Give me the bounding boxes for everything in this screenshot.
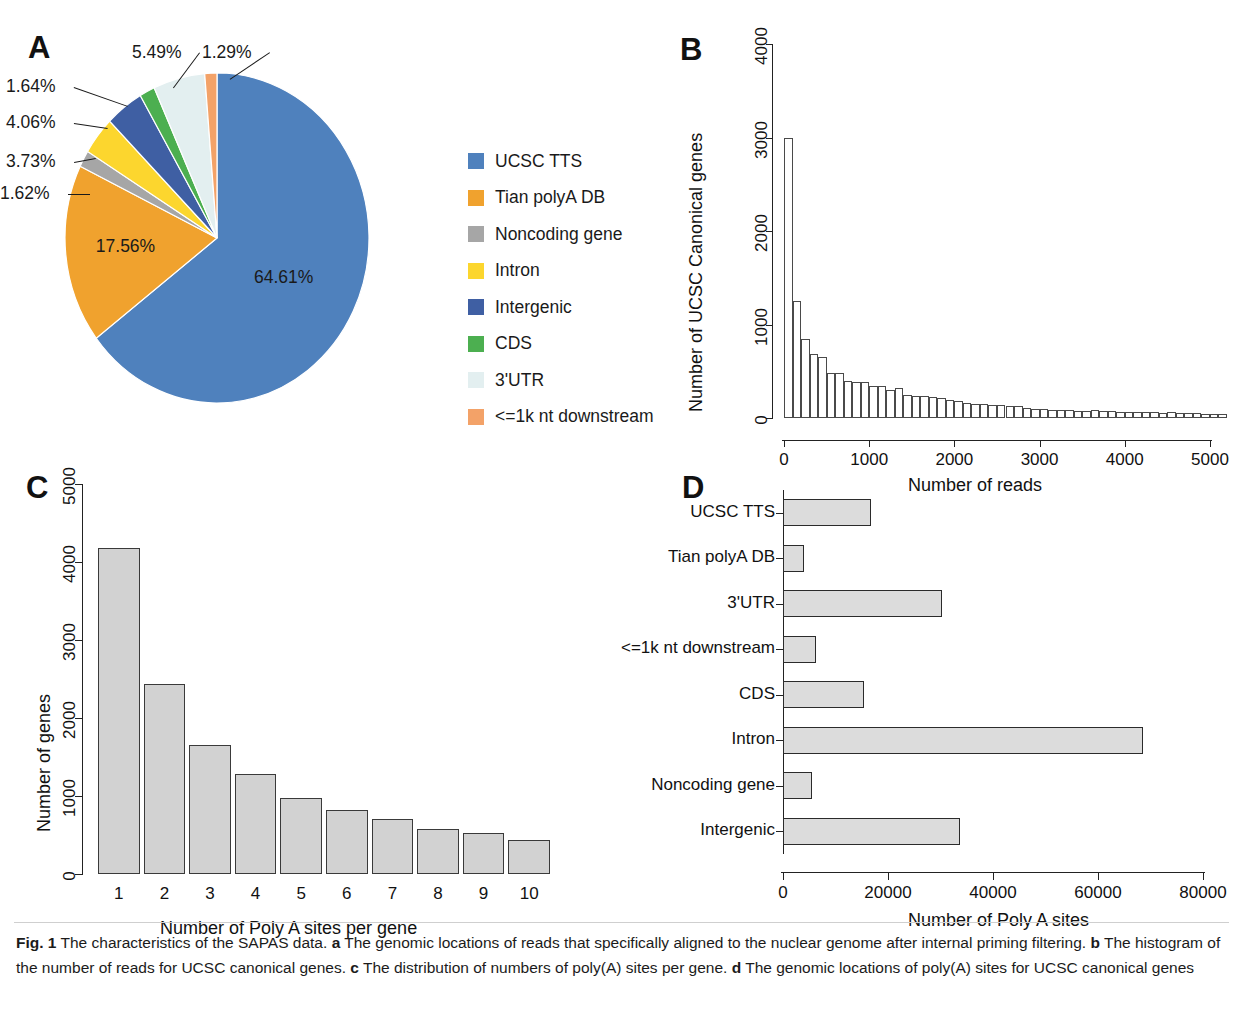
- panel-b-x-axis-line: [782, 440, 1212, 441]
- panel-c-bar: [98, 548, 140, 874]
- panel-b-histogram-bar: [1091, 410, 1100, 418]
- pie-chart-area: 64.61%17.56%1.62%3.73%4.06%1.64%5.49%1.2…: [52, 66, 382, 411]
- panel-b-y-tick-label: 4000: [752, 20, 772, 72]
- pie-slice-label: 4.06%: [6, 112, 56, 133]
- panel-c-bar: [372, 819, 414, 874]
- panel-b-histogram-bar: [1074, 411, 1083, 418]
- panel-c-y-tick-label: 1000: [60, 772, 80, 824]
- panel-b-histogram-bar: [810, 354, 819, 418]
- pie-slice-label: 1.64%: [6, 76, 56, 97]
- panel-b-histogram-bar: [1176, 413, 1185, 418]
- panel-b-letter: B: [680, 32, 702, 68]
- caption-divider: [14, 922, 1229, 923]
- legend-item-label: Tian polyA DB: [495, 187, 605, 208]
- legend-color-swatch: [468, 372, 484, 388]
- panel-d-x-tick-label: 40000: [938, 883, 1048, 903]
- panel-b-histogram-bar: [912, 396, 921, 418]
- panel-d-x-tick: [1098, 872, 1099, 880]
- panel-b-histogram-bar: [1159, 413, 1168, 418]
- panel-c-bar: [417, 829, 459, 874]
- panel-d-category-label: Intergenic: [523, 820, 775, 840]
- panel-b-histogram: B 01000200030004000010002000300040005000…: [640, 18, 1243, 468]
- panel-d-x-tick: [783, 872, 784, 880]
- panel-b-histogram-bar: [1133, 412, 1142, 418]
- panel-d-bar: [783, 590, 942, 617]
- panel-c-x-tick-label: 10: [499, 884, 559, 904]
- panel-a-letter: A: [28, 30, 50, 66]
- panel-b-histogram-bar: [895, 388, 904, 418]
- legend-color-swatch: [468, 409, 484, 425]
- panel-b-histogram-bar: [861, 382, 870, 418]
- panel-b-histogram-bar: [793, 301, 802, 418]
- panel-c-bar: [280, 798, 322, 874]
- panel-d-x-axis-title: Number of Poly A sites: [908, 910, 1089, 931]
- panel-b-histogram-bar: [1142, 412, 1151, 418]
- legend-item-label: Intron: [495, 260, 540, 281]
- panel-b-x-tick: [954, 440, 955, 447]
- panel-b-histogram-bar: [827, 373, 836, 418]
- caption-label: Fig. 1: [16, 934, 56, 951]
- panel-b-histogram-bar: [835, 373, 844, 418]
- panel-b-histogram-bar: [1023, 408, 1032, 418]
- panel-b-x-tick: [1040, 440, 1041, 447]
- panel-b-histogram-bar: [1193, 413, 1202, 418]
- panel-c-y-tick-label: 4000: [60, 538, 80, 590]
- caption-a-tag: a: [332, 934, 341, 951]
- panel-b-histogram-bar: [1031, 409, 1040, 418]
- legend-color-swatch: [468, 299, 484, 315]
- panel-b-histogram-bar: [1099, 411, 1108, 418]
- panel-d-bar: [783, 681, 864, 708]
- legend-color-swatch: [468, 226, 484, 242]
- pie-label-leader-line: [68, 194, 90, 195]
- pie-slice-label: 64.61%: [254, 267, 313, 288]
- panel-d-category-label: 3'UTR: [523, 593, 775, 613]
- panel-d-category-label: CDS: [523, 684, 775, 704]
- panel-d-x-tick-label: 0: [728, 883, 838, 903]
- panel-b-histogram-bar: [903, 395, 912, 418]
- panel-c-y-tick-label: 0: [60, 850, 80, 902]
- panel-c-bar: [508, 840, 550, 874]
- panel-b-histogram-bar: [1108, 411, 1117, 418]
- panel-b-histogram-bar: [784, 138, 793, 418]
- panel-b-histogram-bar: [946, 400, 955, 418]
- panel-b-histogram-bar: [844, 381, 853, 418]
- pie-slice-label: 17.56%: [96, 236, 155, 257]
- panel-b-histogram-bar: [988, 405, 997, 418]
- caption-d-tag: d: [732, 959, 741, 976]
- panel-b-histogram-bar: [1082, 411, 1091, 418]
- panel-b-histogram-bar: [929, 397, 938, 418]
- panel-d-letter: D: [682, 470, 704, 506]
- panel-b-histogram-bar: [878, 386, 887, 418]
- panel-c-y-tick-label: 5000: [60, 460, 80, 512]
- panel-d-category-tick: [776, 786, 783, 787]
- panel-b-x-tick: [869, 440, 870, 447]
- panel-c-bar: [326, 810, 368, 874]
- pie-slice-label: 3.73%: [6, 151, 56, 172]
- panel-d-x-tick-label: 60000: [1043, 883, 1153, 903]
- panel-d-bar: [783, 499, 871, 526]
- panel-d-category-tick: [776, 513, 783, 514]
- caption-a-text: The genomic locations of reads that spec…: [344, 934, 1086, 951]
- panel-b-y-tick-label: 3000: [752, 114, 772, 166]
- legend-item-label: Intergenic: [495, 297, 572, 318]
- panel-b-histogram-bar: [997, 405, 1006, 418]
- panel-d-x-tick: [993, 872, 994, 880]
- caption-d-text: The genomic locations of poly(A) sites f…: [745, 959, 1194, 976]
- panel-b-histogram-bar: [818, 357, 827, 418]
- panel-d-bar: [783, 772, 812, 799]
- panel-d-x-tick: [888, 872, 889, 880]
- panel-b-histogram-bar: [1125, 412, 1134, 418]
- panel-c-y-tick-label: 3000: [60, 616, 80, 668]
- pie-slice-label: 5.49%: [132, 42, 182, 63]
- panel-d-category-tick: [776, 740, 783, 741]
- panel-b-histogram-bar: [1167, 412, 1176, 418]
- panel-b-histogram-bar: [1014, 406, 1023, 418]
- panel-b-y-tick-label: 1000: [752, 301, 772, 353]
- panel-d-bar: [783, 727, 1143, 754]
- panel-d-x-tick-label: 80000: [1148, 883, 1243, 903]
- panel-b-histogram-bar: [937, 398, 946, 418]
- panel-d-category-label: Intron: [523, 729, 775, 749]
- legend-item-label: CDS: [495, 333, 532, 354]
- figure-caption: Fig. 1 The characteristics of the SAPAS …: [16, 930, 1228, 980]
- panel-b-histogram-bar: [1201, 414, 1210, 418]
